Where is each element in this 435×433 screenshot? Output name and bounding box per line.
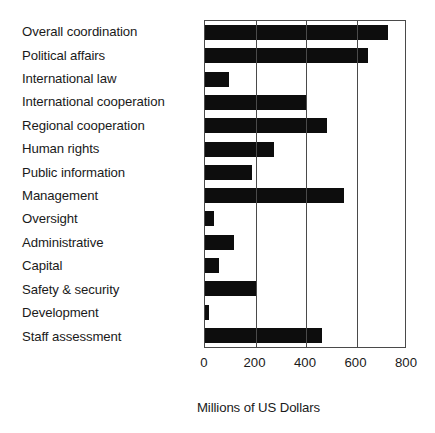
- x-axis-tick-labels: 0200400600800: [204, 355, 406, 375]
- bar-row: [205, 254, 405, 277]
- x-tick-label-0: 0: [200, 355, 207, 371]
- bar-regional-cooperation: [205, 118, 327, 133]
- bar-public-information: [205, 165, 252, 180]
- bar-row: [205, 114, 405, 137]
- bar-row: [205, 300, 405, 323]
- category-label-human-rights: Human rights: [0, 137, 198, 160]
- bar-international-law: [205, 72, 229, 87]
- category-label-capital: Capital: [0, 254, 198, 277]
- x-tick-label-400: 400: [294, 355, 316, 371]
- bar-overall-coordination: [205, 25, 388, 40]
- bar-row: [205, 91, 405, 114]
- bar-row: [205, 161, 405, 184]
- x-axis-title: Millions of US Dollars: [0, 400, 435, 415]
- x-axis-title-text: Millions of US Dollars: [197, 400, 320, 415]
- bar-staff-assessment: [205, 328, 322, 343]
- x-tick-label-200: 200: [243, 355, 265, 371]
- category-label-oversight: Oversight: [0, 207, 198, 230]
- category-label-international-law: International law: [0, 67, 198, 90]
- bar-human-rights: [205, 142, 274, 157]
- x-tick-label-800: 800: [395, 355, 417, 371]
- bar-management: [205, 188, 344, 203]
- category-label-development: Development: [0, 301, 198, 324]
- x-tick-label-600: 600: [344, 355, 366, 371]
- bar-row: [205, 231, 405, 254]
- bar-safety-and-security: [205, 281, 256, 296]
- bar-row: [205, 137, 405, 160]
- bar-row: [205, 44, 405, 67]
- bar-chart: Overall coordinationPolitical affairsInt…: [0, 0, 435, 433]
- bar-oversight: [205, 211, 214, 226]
- bar-row: [205, 21, 405, 44]
- bar-row: [205, 207, 405, 230]
- bar-administrative: [205, 235, 234, 250]
- category-label-staff-assessment: Staff assessment: [0, 324, 198, 347]
- bar-row: [205, 184, 405, 207]
- bar-row: [205, 68, 405, 91]
- category-label-administrative: Administrative: [0, 231, 198, 254]
- plot-area: [204, 20, 406, 348]
- bar-development: [205, 305, 209, 320]
- category-label-political-affairs: Political affairs: [0, 43, 198, 66]
- bars-layer: [205, 21, 405, 347]
- category-label-regional-cooperation: Regional cooperation: [0, 114, 198, 137]
- bar-row: [205, 277, 405, 300]
- bar-row: [205, 324, 405, 347]
- bar-political-affairs: [205, 48, 368, 63]
- category-label-safety-and-security: Safety & security: [0, 278, 198, 301]
- bar-international-cooperation: [205, 95, 306, 110]
- category-axis-labels: Overall coordinationPolitical affairsInt…: [0, 20, 198, 348]
- bar-capital: [205, 258, 219, 273]
- category-label-overall-coordination: Overall coordination: [0, 20, 198, 43]
- category-label-management: Management: [0, 184, 198, 207]
- category-label-international-cooperation: International cooperation: [0, 90, 198, 113]
- category-label-public-information: Public information: [0, 161, 198, 184]
